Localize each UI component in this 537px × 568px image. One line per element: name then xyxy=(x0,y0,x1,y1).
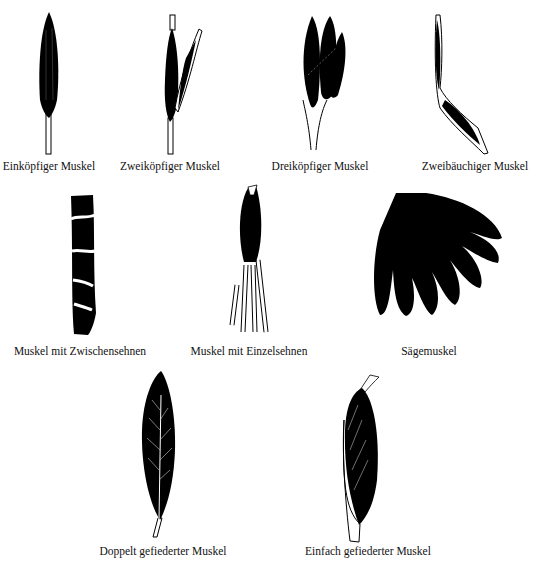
two-belly-muscle-figure xyxy=(435,15,488,154)
bipennate-muscle-figure xyxy=(142,371,175,537)
two-head-muscle-figure xyxy=(165,15,202,154)
label-unipennate-muscle: Einfach gefiederter Muskel xyxy=(305,545,431,557)
serratus-muscle-figure xyxy=(374,193,502,316)
label-serratus-muscle: Sägemuskel xyxy=(401,345,457,357)
label-intermediate-tendons-muscle: Muskel mit Zwischensehnen xyxy=(14,345,146,357)
label-bipennate-muscle: Doppelt gefiederter Muskel xyxy=(99,545,226,557)
muscle-with-individual-tendons-figure xyxy=(232,185,266,332)
muscle-diagram xyxy=(0,0,537,568)
label-individual-tendons-muscle: Muskel mit Einzelsehnen xyxy=(191,345,308,357)
label-single-head-muscle: Einköpfiger Muskel xyxy=(3,160,95,172)
label-two-head-muscle: Zweiköpfiger Muskel xyxy=(120,160,220,172)
single-head-muscle-figure xyxy=(39,12,58,154)
three-head-muscle-figure xyxy=(303,16,345,150)
label-three-head-muscle: Dreiköpfiger Muskel xyxy=(272,160,369,172)
label-two-belly-muscle: Zweibäuchiger Muskel xyxy=(422,160,528,172)
unipennate-muscle-figure xyxy=(343,375,379,542)
muscle-with-intermediate-tendons-figure xyxy=(71,195,96,335)
